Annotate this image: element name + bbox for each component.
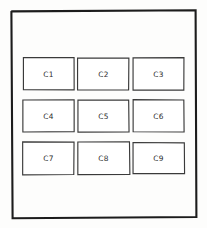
grid-cell-label-c7: C7: [43, 154, 54, 163]
wireframe-sketch: C1C2C3C4C5C6C7C8C9: [0, 0, 207, 228]
screenshot-root: C1C2C3C4C5C6C7C8C9: [0, 0, 207, 228]
grid-cell-label-c5: C5: [98, 112, 109, 121]
grid-cell-label-c4: C4: [43, 112, 54, 121]
grid-cell-label-c2: C2: [98, 70, 109, 79]
grid-cell-label-c6: C6: [153, 112, 164, 121]
grid-cell-label-c8: C8: [98, 154, 109, 163]
cell-grid: C1C2C3C4C5C6C7C8C9: [23, 58, 185, 175]
grid-cell-label-c9: C9: [153, 154, 164, 163]
grid-cell-label-c3: C3: [153, 70, 164, 79]
grid-cell-label-c1: C1: [43, 70, 54, 79]
